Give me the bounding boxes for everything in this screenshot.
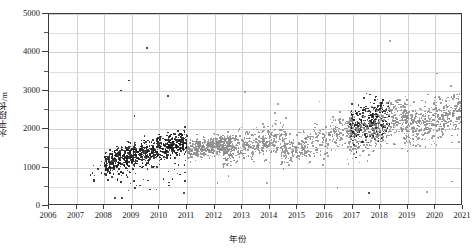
scatter-point <box>101 161 103 163</box>
scatter-point <box>272 132 274 134</box>
scatter-point <box>273 146 275 148</box>
scatter-point <box>339 140 341 142</box>
scatter-point <box>453 110 455 112</box>
scatter-point <box>184 126 186 128</box>
scatter-point <box>120 181 122 183</box>
scatter-point <box>389 130 391 132</box>
scatter-point <box>331 122 333 124</box>
scatter-point <box>424 106 426 108</box>
scatter-point <box>371 128 373 130</box>
scatter-point <box>156 157 158 159</box>
scatter-point <box>292 150 294 152</box>
scatter-point <box>254 134 256 136</box>
scatter-point <box>376 140 378 142</box>
scatter-point <box>118 168 120 170</box>
scatter-point <box>366 142 368 144</box>
scatter-point <box>456 118 458 120</box>
scatter-point <box>440 102 442 104</box>
scatter-point <box>437 116 439 118</box>
scatter-point <box>373 125 375 127</box>
scatter-point <box>379 122 381 124</box>
scatter-point <box>374 99 376 101</box>
scatter-point <box>394 144 396 146</box>
scatter-point <box>169 135 171 137</box>
scatter-point <box>252 135 254 137</box>
scatter-point <box>398 107 400 109</box>
scatter-point <box>160 159 162 161</box>
scatter-point <box>93 181 95 183</box>
scatter-point <box>232 141 234 143</box>
scatter-point <box>323 158 325 160</box>
scatter-point <box>309 155 311 157</box>
scatter-point <box>429 130 431 132</box>
scatter-point <box>381 102 383 104</box>
scatter-point <box>288 164 290 166</box>
scatter-point <box>354 145 356 147</box>
scatter-point <box>391 131 393 133</box>
scatter-point <box>245 141 247 143</box>
scatter-point <box>121 149 123 151</box>
x-tick <box>48 205 49 209</box>
scatter-point <box>149 153 151 155</box>
scatter-point <box>353 153 355 155</box>
scatter-point <box>106 152 108 154</box>
scatter-point <box>440 136 442 138</box>
scatter-point <box>139 185 141 187</box>
scatter-point <box>410 138 412 140</box>
scatter-point <box>172 144 174 146</box>
scatter-point <box>127 156 129 158</box>
scatter-point <box>307 144 309 146</box>
scatter-point <box>213 145 215 147</box>
scatter-point <box>166 135 168 137</box>
scatter-point <box>111 176 113 178</box>
gridline-horizontal <box>49 187 461 188</box>
x-tick <box>296 205 297 209</box>
scatter-point <box>235 162 237 164</box>
scatter-point <box>242 140 244 142</box>
scatter-point <box>275 141 277 143</box>
scatter-point <box>337 146 339 148</box>
scatter-point <box>113 159 115 161</box>
scatter-point <box>460 110 462 112</box>
scatter-point <box>270 137 272 139</box>
scatter-point <box>358 104 360 106</box>
scatter-point <box>379 130 381 132</box>
scatter-point <box>135 153 137 155</box>
scatter-point <box>421 139 423 141</box>
scatter-point <box>312 139 314 141</box>
scatter-point <box>411 114 413 116</box>
scatter-point <box>131 159 133 161</box>
scatter-point <box>449 105 451 107</box>
scatter-point <box>168 141 170 143</box>
scatter-point <box>356 145 358 147</box>
x-tick <box>76 205 77 209</box>
scatter-point <box>265 159 267 161</box>
scatter-point <box>301 146 303 148</box>
scatter-chart-figure: 水平段长/m 010002000300040005000 20062007200… <box>0 0 475 249</box>
scatter-point <box>182 146 184 148</box>
scatter-point <box>216 145 218 147</box>
scatter-point <box>210 155 212 157</box>
scatter-point <box>228 175 230 177</box>
scatter-point <box>378 127 380 129</box>
scatter-point <box>152 139 154 141</box>
scatter-point <box>270 133 272 135</box>
scatter-point <box>381 107 383 109</box>
scatter-point <box>309 138 311 140</box>
scatter-point <box>426 191 428 193</box>
gridline-vertical <box>270 14 271 204</box>
scatter-point <box>403 117 405 119</box>
scatter-point <box>332 140 334 142</box>
scatter-point <box>404 102 406 104</box>
scatter-point <box>134 115 136 117</box>
scatter-point <box>449 111 451 113</box>
scatter-point <box>149 141 151 143</box>
scatter-point <box>405 96 407 98</box>
x-tick-label: 2021 <box>444 210 475 220</box>
scatter-point <box>212 149 214 151</box>
scatter-point <box>330 125 332 127</box>
scatter-point <box>439 99 441 101</box>
scatter-point <box>218 134 220 136</box>
scatter-point <box>373 107 375 109</box>
scatter-point <box>461 116 462 118</box>
